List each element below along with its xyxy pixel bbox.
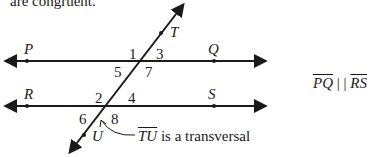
point-t bbox=[159, 31, 163, 35]
angle-5: 5 bbox=[114, 65, 122, 80]
point-p bbox=[25, 59, 29, 63]
segment-tu: TU bbox=[138, 128, 157, 144]
point-r bbox=[25, 104, 29, 108]
parallel-relation: PQ | | RS bbox=[313, 76, 367, 91]
angle-2: 2 bbox=[95, 91, 103, 106]
point-u bbox=[82, 133, 86, 137]
angle-1: 1 bbox=[129, 47, 137, 62]
segment-pq: PQ bbox=[313, 75, 333, 91]
transversal-annotation: TU is a transversal bbox=[138, 129, 250, 144]
label-p: P bbox=[24, 42, 33, 57]
label-u: U bbox=[92, 129, 103, 144]
header-text: are congruent. bbox=[10, 0, 96, 9]
segment-rs: RS bbox=[350, 75, 367, 91]
angle-7: 7 bbox=[145, 65, 153, 80]
point-s bbox=[212, 104, 216, 108]
label-t: T bbox=[170, 25, 178, 40]
label-r: R bbox=[24, 87, 33, 102]
label-s: S bbox=[208, 87, 216, 102]
angle-4: 4 bbox=[128, 91, 136, 106]
angle-6: 6 bbox=[79, 112, 87, 127]
parallel-symbol: | | bbox=[337, 75, 347, 91]
angle-3: 3 bbox=[156, 47, 164, 62]
point-q bbox=[212, 59, 216, 63]
angle-8: 8 bbox=[111, 112, 119, 127]
label-q: Q bbox=[208, 42, 219, 57]
